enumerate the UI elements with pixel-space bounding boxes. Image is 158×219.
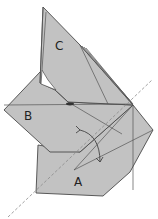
label-b: B	[24, 109, 32, 123]
pinch-mark	[66, 103, 74, 106]
origami-diagram: C B A	[0, 0, 158, 219]
label-c: C	[55, 39, 63, 53]
label-a: A	[74, 175, 83, 189]
